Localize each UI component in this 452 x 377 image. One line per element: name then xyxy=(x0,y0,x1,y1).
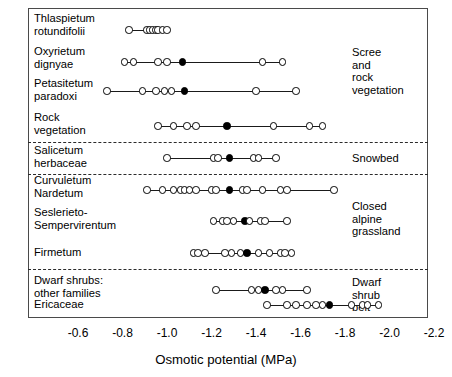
x-tick-label: -1.8 xyxy=(335,326,356,340)
row-label: Thlaspietum rotundifolii xyxy=(34,12,95,37)
row-label: Ericaceae xyxy=(34,298,84,311)
data-point xyxy=(163,154,170,161)
data-point xyxy=(121,58,128,65)
x-tick-label: -0.8 xyxy=(112,326,133,340)
row-label: Seslerieto- Sempervirentum xyxy=(34,206,116,231)
data-point xyxy=(272,154,279,161)
data-point xyxy=(292,301,299,308)
x-axis-title: Osmotic potential (MPa) xyxy=(0,352,452,367)
row-label: Oxyrietum dignyae xyxy=(34,45,85,70)
data-point xyxy=(330,186,337,193)
data-point xyxy=(130,58,137,65)
row-label: Curvuletum Nardetum xyxy=(34,174,91,199)
mean-point xyxy=(226,186,233,193)
data-point xyxy=(292,87,299,94)
row-label: Dwarf shrubs: other families xyxy=(34,274,103,299)
data-point xyxy=(243,186,250,193)
group-separator xyxy=(28,174,428,175)
data-point xyxy=(170,122,177,129)
data-point xyxy=(303,286,310,293)
data-point xyxy=(283,186,290,193)
range-line xyxy=(107,91,296,92)
data-point xyxy=(375,301,382,308)
mean-point xyxy=(243,249,250,256)
data-point xyxy=(183,122,190,129)
data-point xyxy=(125,26,132,33)
data-point xyxy=(139,87,146,94)
row-label: Salicetum herbaceae xyxy=(34,144,87,169)
chart-root: Scree and rock vegetationThlaspietum rot… xyxy=(0,0,452,377)
mean-point xyxy=(179,58,186,65)
data-point xyxy=(212,286,219,293)
data-point xyxy=(168,87,175,94)
data-point xyxy=(201,249,208,256)
x-tick-label: -1.2 xyxy=(201,326,222,340)
data-point xyxy=(306,122,313,129)
x-tick-label: -2.0 xyxy=(379,326,400,340)
data-point xyxy=(212,186,219,193)
data-point xyxy=(246,217,253,224)
data-point xyxy=(259,58,266,65)
x-tick-label: -0.6 xyxy=(68,326,89,340)
data-point xyxy=(255,249,262,256)
data-point xyxy=(279,58,286,65)
data-point xyxy=(288,249,295,256)
data-point xyxy=(192,186,199,193)
data-point xyxy=(143,186,150,193)
row-label: Rock vegetation xyxy=(34,111,86,136)
data-point xyxy=(192,122,199,129)
x-tick-label: -1.0 xyxy=(157,326,178,340)
x-tick-label: -1.6 xyxy=(290,326,311,340)
data-point xyxy=(159,186,166,193)
data-point xyxy=(252,87,259,94)
data-point xyxy=(283,301,290,308)
data-point xyxy=(279,286,286,293)
row-label: Petasitetum paradoxi xyxy=(34,77,93,102)
x-tick-label: -1.4 xyxy=(246,326,267,340)
data-point xyxy=(163,58,170,65)
data-point xyxy=(303,301,310,308)
data-point xyxy=(103,87,110,94)
data-point xyxy=(255,154,262,161)
data-point xyxy=(263,301,270,308)
data-point xyxy=(261,217,268,224)
mean-point xyxy=(261,286,268,293)
group-label: Closed alpine grassland xyxy=(352,200,401,238)
data-point xyxy=(154,58,161,65)
data-point xyxy=(210,217,217,224)
row-label: Firmetum xyxy=(34,246,81,259)
group-separator xyxy=(28,269,428,270)
group-separator xyxy=(28,142,428,143)
mean-point xyxy=(326,301,333,308)
data-point xyxy=(152,87,159,94)
data-point xyxy=(266,249,273,256)
x-tick-label: -2.2 xyxy=(424,326,445,340)
mean-point xyxy=(223,122,230,129)
data-point xyxy=(228,249,235,256)
data-point xyxy=(154,122,161,129)
group-label: Snowbed xyxy=(352,152,399,165)
data-point xyxy=(214,154,221,161)
data-point xyxy=(348,301,355,308)
data-point xyxy=(259,186,266,193)
group-label: Scree and rock vegetation xyxy=(352,46,404,96)
data-point xyxy=(163,26,170,33)
mean-point xyxy=(226,154,233,161)
data-point xyxy=(364,301,371,308)
data-point xyxy=(283,217,290,224)
